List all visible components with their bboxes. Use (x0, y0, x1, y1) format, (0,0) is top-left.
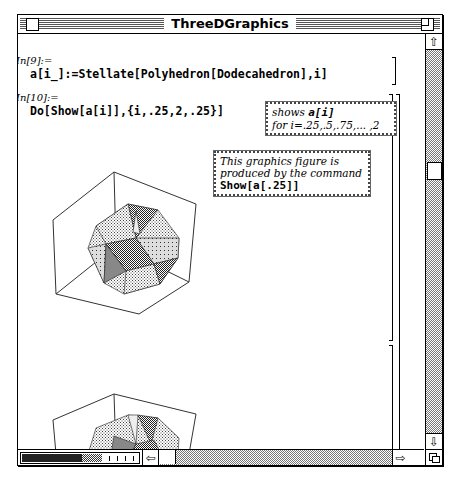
input-label-10: In[10]:= (18, 92, 59, 103)
horizontal-scroll-thumb[interactable] (159, 450, 176, 464)
input-label-9: In[9]:= (18, 55, 52, 66)
annotation-shows: shows a[i] for i=.25,.5,.75,... ,2 (266, 102, 396, 135)
scroll-up-arrow-icon[interactable]: ⇧ (426, 34, 442, 50)
cell-bracket-9[interactable] (392, 57, 396, 85)
window-title-text: ThreeDGraphics (164, 16, 295, 31)
magnification-fill-pattern (82, 454, 102, 462)
input-cell-10[interactable]: Do[Show[a[i]],{i,.25,2,.25}] (30, 104, 224, 118)
resize-grow-box-icon[interactable] (425, 449, 442, 465)
magnification-tick (117, 456, 118, 461)
annotation-figure-line2: produced by the command (220, 167, 364, 179)
annotation-shows-line1: shows a[i] (272, 106, 390, 119)
scroll-down-arrow-icon[interactable]: ⇩ (426, 433, 442, 449)
cell-bracket-output-2[interactable] (389, 345, 393, 449)
annotation-shows-text: shows (272, 106, 308, 118)
annotation-shows-code: a[i] (308, 106, 335, 119)
annotation-shows-range: for i=.25,.5,.75,... ,2 (272, 119, 390, 131)
magnification-tick (133, 456, 134, 461)
scroll-left-arrow-icon[interactable]: ⇦ (142, 450, 159, 465)
window-title: ThreeDGraphics (18, 16, 442, 32)
annotation-figure-line1: This graphics figure is (220, 155, 364, 167)
notebook-window: ThreeDGraphics In[9]:= a[i_]:=Stellate[P… (17, 14, 443, 466)
horizontal-scrollbar[interactable]: ⇦ ⇨ (18, 449, 424, 465)
horizontal-scroll-track[interactable] (159, 450, 408, 465)
magnification-bar[interactable] (20, 452, 140, 464)
annotation-figure: This graphics figure is produced by the … (214, 151, 370, 196)
title-bar[interactable]: ThreeDGraphics (18, 15, 442, 34)
magnification-tick (109, 456, 110, 461)
notebook-content: In[9]:= a[i_]:=Stellate[Polyhedron[Dodec… (18, 34, 406, 449)
input-cell-9[interactable]: a[i_]:=Stellate[Polyhedron[Dodecahedron]… (30, 67, 328, 81)
annotation-figure-code: Show[a[.25]] (220, 179, 364, 192)
magnification-tick (125, 456, 126, 461)
graphics-output-2[interactable] (36, 374, 206, 449)
graphics-output-1[interactable] (36, 166, 206, 336)
vertical-scrollbar[interactable]: ⇧ ⇩ (425, 34, 442, 449)
zoom-box-icon[interactable] (421, 18, 434, 31)
vertical-scroll-thumb[interactable] (427, 162, 442, 180)
magnification-fill (22, 454, 82, 462)
scroll-right-arrow-icon[interactable]: ⇨ (392, 450, 408, 465)
cell-group-bracket[interactable] (396, 94, 400, 449)
